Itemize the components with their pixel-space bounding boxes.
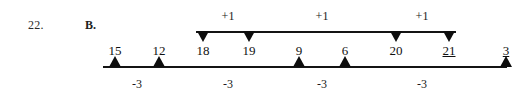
problem-number: 22. xyxy=(28,18,44,33)
bottom-operation-label: -3 xyxy=(302,77,342,92)
sequence-term: 21 xyxy=(432,43,466,59)
down-triangle-marker xyxy=(243,31,255,42)
down-triangle-marker xyxy=(443,31,455,42)
bottom-operation-label: -3 xyxy=(208,77,248,92)
sequence-term: 19 xyxy=(232,43,266,59)
sequence-term: 9 xyxy=(282,43,316,59)
top-operation-label: +1 xyxy=(402,9,442,24)
worksheet-problem-figure: 22. B. 151218199620213 +1+1+1 -3-3-3-3 xyxy=(0,0,522,96)
top-operation-label: +1 xyxy=(208,9,248,24)
sequence-term: 15 xyxy=(98,43,132,59)
sequence-term: 20 xyxy=(379,43,413,59)
sequence-term: 18 xyxy=(186,43,220,59)
bottom-operation-label: -3 xyxy=(402,77,442,92)
problem-part-label: B. xyxy=(85,18,96,33)
top-operation-rail xyxy=(196,31,456,33)
sequence-term: 12 xyxy=(142,43,176,59)
sequence-term: 3 xyxy=(489,43,522,59)
sequence-term: 6 xyxy=(328,43,362,59)
top-operation-label: +1 xyxy=(302,9,342,24)
bottom-operation-label: -3 xyxy=(117,77,157,92)
down-triangle-marker xyxy=(390,31,402,42)
down-triangle-marker xyxy=(197,31,209,42)
